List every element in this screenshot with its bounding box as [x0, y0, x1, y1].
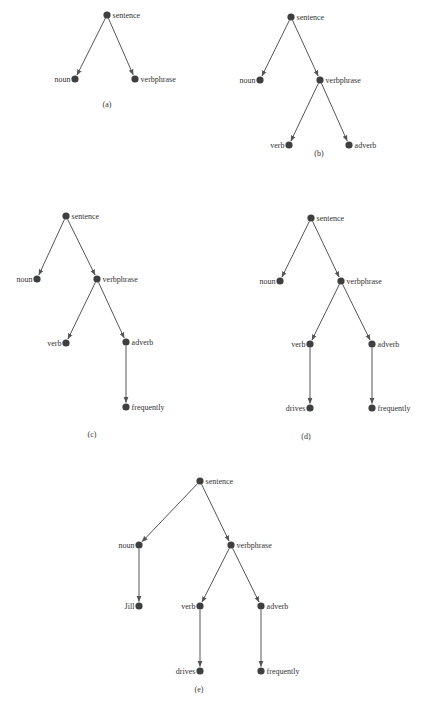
edge-sentence-to-verbphrase [108, 18, 133, 74]
node-adverb-label: adverb [267, 602, 289, 611]
node-sentence-dot [103, 11, 110, 18]
node-sentence-dot [196, 477, 203, 484]
edge-sentence-to-noun [39, 219, 65, 275]
node-verbphrase-label: verbphrase [347, 277, 383, 286]
tree-b: sentencenounverbphraseverbadverb(b) [239, 13, 376, 159]
tree-caption: (e) [195, 685, 204, 694]
edge-sentence-to-verbphrase [68, 219, 95, 275]
node-frequently-dot [122, 403, 129, 410]
node-verb-dot [196, 602, 203, 609]
edge-sentence-to-noun [142, 484, 197, 542]
node-noun-label: noun [259, 277, 275, 286]
tree-a: sentencenounverbphrase(a) [54, 11, 176, 110]
node-noun-label: noun [54, 75, 70, 84]
edge-sentence-to-noun [262, 20, 289, 76]
tree-caption: (b) [314, 149, 324, 158]
tree-e: sentencenounverbphraseJillverbadverbdriv… [118, 477, 299, 695]
node-verb-dot [306, 340, 313, 347]
node-adverb-dot [345, 141, 352, 148]
edge-verbphrase-to-verb [202, 548, 229, 602]
node-frequently-label: frequently [267, 667, 300, 676]
node-verbphrase-dot [131, 75, 138, 82]
node-frequently-label: frequently [378, 404, 411, 413]
node-adverb-dot [257, 602, 264, 609]
node-sentence-dot [307, 214, 314, 221]
node-noun-dot [276, 277, 283, 284]
node-verbphrase-label: verbphrase [103, 275, 139, 284]
node-noun-dot [33, 275, 40, 282]
edge-verbphrase-to-adverb [321, 83, 347, 141]
node-adverb-dot [122, 338, 129, 345]
node-adverb-label: adverb [132, 338, 154, 347]
node-verb-label: verb [47, 339, 61, 348]
tree-c: sentencenounverbphraseverbadverbfrequent… [16, 212, 164, 440]
node-jill-label: Jill [125, 602, 136, 611]
parse-trees: sentencenounverbphrase(a)sentencenounver… [16, 11, 410, 695]
tree-caption: (d) [301, 432, 311, 441]
node-noun-dot [135, 541, 142, 548]
node-verb-dot [285, 141, 292, 148]
node-adverb-label: adverb [378, 340, 400, 349]
node-noun-dot [256, 76, 263, 83]
tree-d: sentencenounverbphraseverbadverbdrivesfr… [259, 214, 410, 442]
edge-sentence-to-verbphrase [293, 20, 319, 76]
edge-sentence-to-noun [282, 221, 309, 277]
node-frequently-dot [257, 667, 264, 674]
node-adverb-label: adverb [355, 141, 377, 150]
node-sentence-dot [62, 212, 69, 219]
node-verb-label: verb [291, 340, 305, 349]
edge-verbphrase-to-adverb [99, 282, 125, 338]
edge-sentence-to-verbphrase [313, 221, 339, 277]
tree-caption: (a) [103, 100, 112, 109]
edge-verbphrase-to-verb [68, 282, 95, 339]
node-sentence-label: sentence [297, 13, 325, 22]
node-verbphrase-dot [337, 277, 344, 284]
node-verbphrase-dot [316, 76, 323, 83]
node-verb-label: verb [270, 141, 284, 150]
parse-tree-figure: sentencenounverbphrase(a)sentencenounver… [0, 0, 427, 707]
node-frequently-label: frequently [132, 403, 165, 412]
edge-verbphrase-to-adverb [233, 548, 259, 602]
node-sentence-dot [287, 13, 294, 20]
node-drives-label: drives [176, 667, 196, 676]
node-frequently-dot [368, 404, 375, 411]
node-drives-label: drives [286, 404, 306, 413]
node-drives-dot [196, 667, 203, 674]
node-noun-dot [71, 75, 78, 82]
node-verbphrase-label: verbphrase [237, 541, 273, 550]
node-sentence-label: sentence [206, 477, 234, 486]
node-drives-dot [306, 404, 313, 411]
edge-verbphrase-to-verb [312, 284, 339, 340]
node-verb-label: verb [181, 602, 195, 611]
node-verbphrase-label: verbphrase [326, 76, 362, 85]
node-verbphrase-dot [93, 275, 100, 282]
node-sentence-label: sentence [113, 11, 141, 20]
edge-sentence-to-verbphrase [202, 484, 229, 541]
node-verb-dot [62, 339, 69, 346]
node-sentence-label: sentence [72, 212, 100, 221]
node-adverb-dot [368, 340, 375, 347]
tree-caption: (c) [88, 430, 97, 439]
node-verbphrase-label: verbphrase [141, 75, 177, 84]
edge-sentence-to-noun [77, 18, 105, 75]
node-sentence-label: sentence [317, 214, 345, 223]
edge-verbphrase-to-adverb [343, 284, 370, 340]
node-noun-label: noun [118, 541, 134, 550]
node-noun-label: noun [239, 76, 255, 85]
node-verbphrase-dot [227, 541, 234, 548]
node-noun-label: noun [16, 275, 32, 284]
node-jill-dot [135, 602, 142, 609]
edge-verbphrase-to-verb [291, 83, 318, 141]
